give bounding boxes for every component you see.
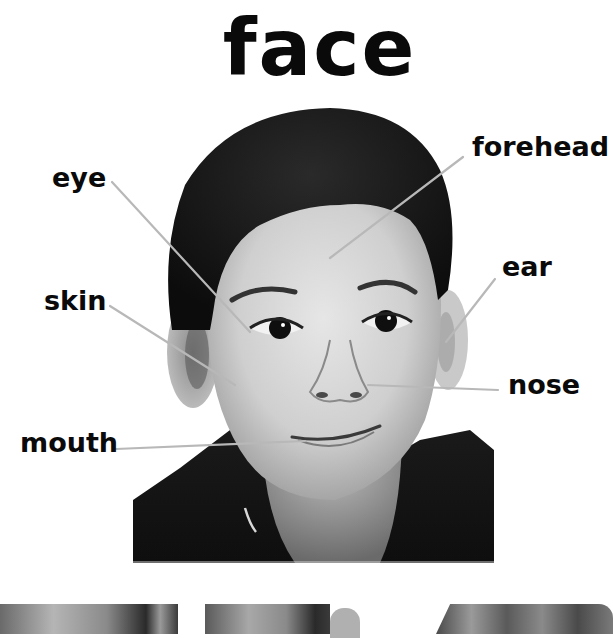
thumbnail-3: [436, 604, 613, 634]
label-eye: eye: [52, 163, 106, 193]
thumbnail-1: [0, 604, 178, 634]
label-forehead: forehead: [472, 132, 609, 162]
thumbnail-2: [205, 604, 330, 634]
label-mouth: mouth: [20, 428, 118, 458]
label-skin: skin: [44, 286, 107, 316]
thumbnail-2-ear: [330, 608, 360, 638]
label-ear: ear: [502, 252, 552, 282]
label-nose: nose: [508, 370, 580, 400]
portrait-photo: [133, 108, 494, 563]
